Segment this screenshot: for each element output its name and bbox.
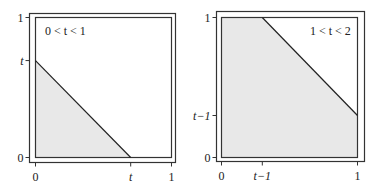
y-tick-label: 0 xyxy=(205,151,211,165)
y-tick-label: t−1 xyxy=(193,109,210,123)
panel-left: 1t00t1 0 < t < 1 xyxy=(18,11,176,184)
y-tick-label: 1 xyxy=(18,11,24,25)
condition-label: 0 < t < 1 xyxy=(45,24,86,38)
x-tick-label: t xyxy=(129,170,133,184)
panel-right: 1t−100t−11 1 < t < 2 xyxy=(193,11,364,183)
diagram: 1t00t1 0 < t < 1 1t−100t−11 1 < t < 2 xyxy=(0,0,378,190)
x-tick-label: 1 xyxy=(169,170,175,184)
x-tick-label: 1 xyxy=(355,169,361,183)
x-tick-label: 0 xyxy=(33,170,39,184)
y-tick-label: t xyxy=(20,54,24,68)
y-tick-label: 0 xyxy=(18,151,24,165)
x-tick-label: 0 xyxy=(219,169,225,183)
shaded-region xyxy=(222,18,358,158)
x-tick-label: t−1 xyxy=(254,169,271,183)
condition-label: 1 < t < 2 xyxy=(310,24,351,38)
y-tick-label: 1 xyxy=(205,11,211,25)
